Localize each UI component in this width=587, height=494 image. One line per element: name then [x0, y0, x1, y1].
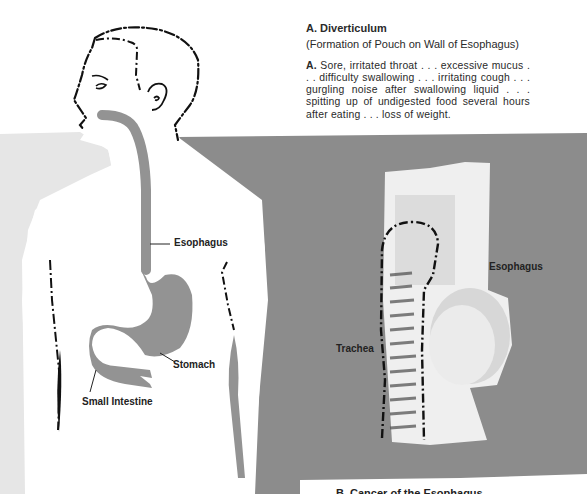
section-a-subheading: (Formation of Pouch on Wall of Esophagus… [306, 38, 530, 50]
section-a-body-lead: A. [306, 60, 317, 71]
section-a-text: A. Diverticulum (Formation of Pouch on W… [306, 22, 530, 121]
section-a-heading: A. Diverticulum [306, 22, 530, 34]
esophagus-shading [395, 195, 455, 285]
label-esophagus-right: Esophagus [489, 261, 543, 272]
label-small-intestine: Small Intestine [82, 396, 153, 407]
pouch-highlight [429, 305, 495, 385]
label-trachea: Trachea [336, 343, 374, 354]
label-stomach: Stomach [173, 359, 215, 370]
label-esophagus-left: Esophagus [174, 237, 228, 248]
section-a-body: A. Sore, irritated throat . . . excessiv… [306, 60, 530, 120]
section-b-heading: B. Cancer of the Esophagus [336, 487, 483, 494]
section-a-body-text: Sore, irritated throat . . . excessive m… [306, 60, 530, 119]
